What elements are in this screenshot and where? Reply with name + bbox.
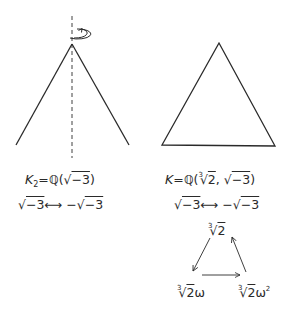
cycle-arrows	[193, 237, 246, 275]
cone-right-edge	[72, 44, 129, 145]
bidirectional-arrow-icon: ⟷	[44, 197, 62, 212]
cycle-node-bottom-left: 3√2ω	[177, 287, 205, 300]
rationals-symbol: ℚ	[49, 172, 59, 187]
radicand: 2	[217, 223, 225, 238]
diagram-canvas	[0, 0, 290, 313]
bidirectional-arrow-icon: ⟷	[200, 197, 218, 212]
radicand: −3	[71, 172, 89, 187]
rationals-symbol: ℚ	[184, 172, 194, 187]
left-automorphism: √−3⟷ −√−3	[18, 199, 103, 212]
exponent: 2	[266, 285, 270, 293]
omega: ω	[255, 285, 265, 300]
cone-figure	[16, 16, 129, 158]
root-index: 3	[208, 222, 212, 230]
right-field-label: K=ℚ(3√2, √−3)	[165, 174, 255, 187]
close-paren: )	[250, 172, 255, 187]
from-radicand: −3	[26, 197, 44, 212]
cube-root-index: 3	[198, 171, 202, 179]
root-index: 3	[238, 284, 242, 292]
arrow-right-to-top	[232, 237, 246, 272]
close-paren: )	[90, 172, 95, 187]
cycle-node-bottom-right: 3√2ω2	[238, 287, 270, 300]
rotation-arrow-icon	[70, 29, 91, 39]
minus-sign: −	[66, 197, 76, 212]
sqrt-radicand: −3	[232, 172, 250, 187]
left-field-label: K2=ℚ(√−3)	[25, 174, 95, 187]
equals-sign: =	[38, 172, 48, 187]
minus-sign: −	[222, 197, 232, 212]
field-var: K	[165, 172, 173, 187]
omega: ω	[194, 285, 204, 300]
comma: ,	[216, 172, 220, 187]
to-radicand: −3	[85, 197, 103, 212]
to-radicand: −3	[241, 197, 259, 212]
arrow-top-to-left	[193, 238, 210, 271]
field-subscript: 2	[33, 180, 38, 189]
from-radicand: −3	[182, 197, 200, 212]
open-paren: (	[59, 172, 64, 187]
root-index: 3	[177, 284, 181, 292]
equals-sign: =	[173, 172, 183, 187]
cube-radicand: 2	[208, 172, 216, 187]
field-var: K	[25, 172, 33, 187]
equilateral-triangle-shape	[162, 43, 275, 146]
cycle-node-top: 3√2	[208, 225, 225, 238]
right-automorphism: √−3⟷ −√−3	[174, 199, 259, 212]
cone-left-edge	[16, 44, 72, 145]
